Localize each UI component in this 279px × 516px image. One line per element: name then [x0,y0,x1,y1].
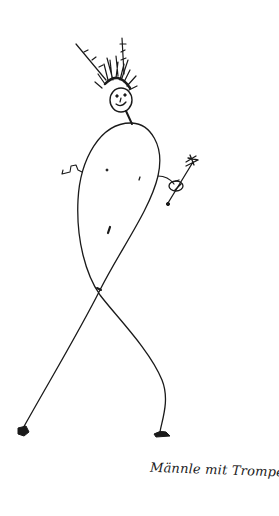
body-and-legs [22,123,165,432]
trumpet [168,155,198,203]
left-arm [62,165,82,174]
right-foot [154,431,170,437]
line-drawing [0,0,279,516]
body-dot [106,169,108,171]
body-dash [108,227,110,233]
left-foot [18,426,29,436]
neck [126,111,132,124]
hair [95,56,137,90]
trumpet-dot [166,202,169,205]
head [110,88,132,112]
body-mark [139,177,140,180]
antenna [76,38,126,80]
